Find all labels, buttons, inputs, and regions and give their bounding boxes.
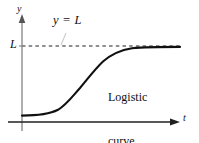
logistic-curve-figure: y t L y = L Logistic curve	[0, 0, 199, 143]
figure-canvas	[0, 0, 199, 143]
t-axis-arrowhead	[170, 119, 180, 126]
curve-label-line-2: curve	[108, 134, 147, 143]
asymptote-label: y = L	[53, 14, 82, 27]
logistic-curve-path	[22, 47, 180, 116]
curve-label: Logistic curve	[108, 61, 147, 143]
asymptote-leader-line	[61, 33, 66, 45]
y-axis-tick-label-L: L	[10, 38, 17, 50]
t-axis-label: t	[183, 113, 186, 123]
curve-label-line-1: Logistic	[108, 90, 147, 105]
y-axis-arrowhead	[19, 14, 26, 23]
y-axis-label: y	[17, 4, 21, 14]
